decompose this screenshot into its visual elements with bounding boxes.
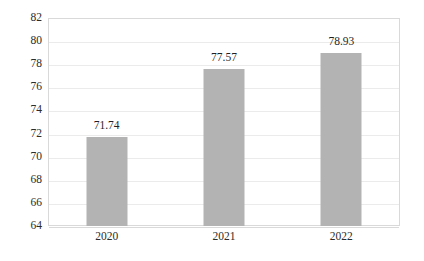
- y-tick-label: 74: [31, 105, 43, 117]
- bar-chart: 64666870727476788082 71.7477.5778.93 202…: [0, 0, 424, 261]
- gridline: [49, 227, 399, 228]
- bar-group: 77.57: [165, 18, 282, 226]
- bar-value-label: 71.74: [94, 120, 120, 132]
- y-tick-label: 72: [31, 128, 43, 140]
- x-tick-label: 2022: [330, 231, 353, 243]
- bar-series: 71.7477.5778.93: [48, 18, 400, 226]
- x-tick-label: 2021: [213, 231, 236, 243]
- y-tick-label: 80: [31, 35, 43, 47]
- bar-group: 78.93: [283, 18, 400, 226]
- bar-group: 71.74: [48, 18, 165, 226]
- bar: [86, 137, 127, 226]
- y-tick-label: 70: [31, 151, 43, 163]
- y-axis: 64666870727476788082: [0, 18, 42, 226]
- bar: [203, 69, 244, 226]
- y-tick-label: 82: [31, 12, 43, 24]
- y-tick-label: 68: [31, 174, 43, 186]
- y-tick-label: 78: [31, 58, 43, 70]
- bar-value-label: 77.57: [211, 52, 237, 64]
- y-tick-label: 66: [31, 197, 43, 209]
- y-tick-label: 76: [31, 82, 43, 94]
- x-axis: 202020212022: [48, 231, 400, 251]
- y-tick-label: 64: [31, 220, 43, 232]
- bar-value-label: 78.93: [328, 36, 354, 48]
- bar: [321, 53, 362, 226]
- x-tick-label: 2020: [95, 231, 118, 243]
